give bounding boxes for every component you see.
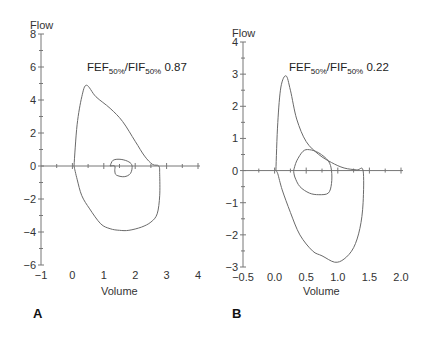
fef-fif-ratio-annotation: FEF50%/FIF50% 0.87 [87,61,187,76]
x-tick-label: 2.0 [393,271,408,283]
panel-label: B [232,306,241,321]
x-tick-label: 1 [101,269,107,281]
chart-panel-a: Flow 86420−2−4−6−101234 FEF50%/FIF50% 0.… [23,19,201,321]
x-tick-label: 1.5 [362,271,377,283]
x-tick-label: 0.0 [267,271,282,283]
fef-fif-ratio-annotation: FEF50%/FIF50% 0.22 [289,61,389,76]
y-tick-label: 0 [232,165,238,177]
x-axis-title: Volume [303,285,340,297]
plot-area [276,76,364,263]
y-tick-label: 4 [232,36,238,48]
y-tick-label: 3 [232,68,238,80]
x-tick-label: 1.0 [330,271,345,283]
x-tick-label: 0.5 [299,271,314,283]
plot-area [74,85,160,230]
y-tick-label: 6 [30,61,36,73]
x-axis-title: Volume [101,285,138,297]
x-tick-label: 2 [132,269,138,281]
x-tick-label: 0 [69,269,75,281]
y-tick-label: 1 [232,132,238,144]
outer-loop-curve [74,85,160,230]
y-tick-label: −2 [23,193,36,205]
y-tick-label: 2 [232,100,238,112]
inner-loop-curve [294,150,332,195]
inner-loop-curve [110,159,132,177]
x-tick-label: −0.5 [232,271,254,283]
x-tick-label: 3 [164,269,170,281]
panel-label: A [33,306,43,321]
x-tick-label: 4 [195,269,201,281]
y-tick-label: −4 [23,226,36,238]
y-tick-label: −1 [225,197,238,209]
y-tick-label: 8 [30,28,36,40]
y-tick-label: 4 [30,94,36,106]
chart-panel-b: Flow 43210−1−2−3−0.50.00.51.01.52.0 FEF5… [225,27,408,321]
x-tick-label: −1 [35,269,48,281]
y-tick-label: −2 [225,229,238,241]
y-tick-label: 0 [30,160,36,172]
flow-volume-figure: Flow 86420−2−4−6−101234 FEF50%/FIF50% 0.… [0,0,428,339]
outer-loop-curve [276,76,364,263]
y-tick-label: 2 [30,127,36,139]
